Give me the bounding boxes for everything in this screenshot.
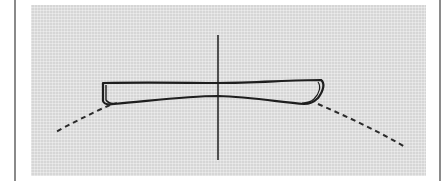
page (0, 0, 448, 181)
profile-outline (103, 80, 323, 104)
right-dashed-extension (318, 104, 405, 147)
profile-left-end-detail (106, 85, 117, 103)
left-dashed-extension (54, 105, 110, 133)
profile-drawing (0, 0, 448, 181)
